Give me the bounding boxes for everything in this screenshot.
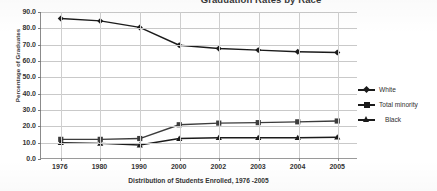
legend-item-total-minority[interactable]: Total minority — [358, 98, 436, 111]
y-tick-mark — [38, 159, 41, 160]
y-tick-label: 10.0 — [6, 139, 36, 147]
vertical-gridline — [299, 12, 300, 158]
x-tick-mark — [140, 158, 141, 161]
vertical-gridline — [219, 12, 220, 158]
line-chart: Graduation Rates by Race Percentage of G… — [0, 0, 437, 191]
legend-label: Black — [375, 116, 401, 123]
y-tick-mark — [38, 126, 41, 127]
x-tick-mark — [338, 158, 339, 161]
y-tick-label: 0.0 — [6, 155, 36, 163]
horizontal-gridline — [41, 12, 357, 13]
y-tick-mark — [38, 45, 41, 46]
x-tick-label: 2004 — [290, 163, 306, 170]
y-tick-label: 40.0 — [6, 90, 36, 98]
x-tick-mark — [299, 158, 300, 161]
y-tick-label: 70.0 — [6, 41, 36, 49]
x-axis-title: Distribution of Students Enrolled, 1976 … — [40, 177, 357, 184]
y-tick-label: 30.0 — [6, 106, 36, 114]
legend-item-white[interactable]: White — [358, 83, 436, 96]
vertical-gridline — [180, 12, 181, 158]
horizontal-gridline — [41, 110, 357, 111]
horizontal-gridline — [41, 126, 357, 127]
x-tick-label: 2002 — [211, 163, 227, 170]
square-marker-icon — [358, 99, 375, 110]
y-tick-mark — [38, 61, 41, 62]
x-tick-mark — [100, 158, 101, 161]
x-tick-mark — [219, 158, 220, 161]
horizontal-gridline — [41, 143, 357, 144]
x-tick-label: 2005 — [329, 163, 345, 170]
legend-label: White — [375, 86, 396, 93]
y-tick-mark — [38, 77, 41, 78]
vertical-gridline — [140, 12, 141, 158]
y-tick-mark — [38, 12, 41, 13]
legend-item-black[interactable]: Black — [358, 113, 436, 126]
series-line — [61, 18, 338, 52]
triangle-marker-icon — [358, 114, 375, 125]
y-tick-label: 90.0 — [6, 8, 36, 16]
x-tick-label: 1976 — [52, 163, 68, 170]
y-axis-tick-labels: 0.010.020.030.040.050.060.070.080.090.0 — [4, 0, 36, 191]
diamond-marker-icon — [358, 84, 375, 95]
x-axis-tick-labels: 19761980199020002002200320042005 — [40, 163, 357, 175]
y-tick-mark — [38, 28, 41, 29]
horizontal-gridline — [41, 28, 357, 29]
legend-label: Total minority — [375, 101, 418, 108]
y-tick-mark — [38, 110, 41, 111]
y-tick-label: 80.0 — [6, 24, 36, 32]
x-tick-mark — [259, 158, 260, 161]
series-container — [41, 12, 357, 158]
horizontal-gridline — [41, 77, 357, 78]
horizontal-gridline — [41, 94, 357, 95]
chart-title: Graduation Rates by Race — [96, 0, 426, 6]
x-tick-label: 2000 — [171, 163, 187, 170]
horizontal-gridline — [41, 45, 357, 46]
x-tick-label: 2003 — [250, 163, 266, 170]
x-tick-label: 1980 — [92, 163, 108, 170]
x-tick-label: 1990 — [131, 163, 147, 170]
x-tick-mark — [180, 158, 181, 161]
y-tick-mark — [38, 143, 41, 144]
vertical-gridline — [338, 12, 339, 158]
chart-legend: WhiteTotal minorityBlack — [358, 83, 436, 127]
vertical-gridline — [100, 12, 101, 158]
y-tick-mark — [38, 94, 41, 95]
vertical-gridline — [61, 12, 62, 158]
y-tick-label: 20.0 — [6, 122, 36, 130]
vertical-gridline — [259, 12, 260, 158]
x-tick-mark — [61, 158, 62, 161]
horizontal-gridline — [41, 61, 357, 62]
y-tick-label: 60.0 — [6, 57, 36, 65]
plot-area — [40, 12, 357, 159]
y-tick-label: 50.0 — [6, 73, 36, 81]
